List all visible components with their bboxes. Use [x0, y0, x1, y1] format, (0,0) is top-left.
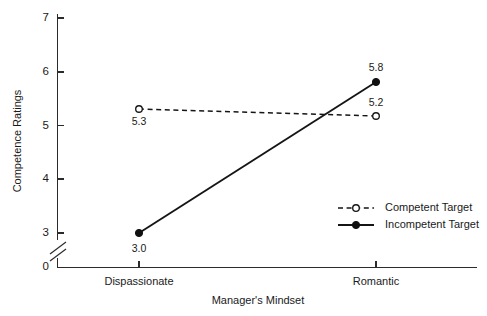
legend-label-incompetent-target: Incompetent Target [385, 218, 479, 230]
y-tick-label-3: 3 [43, 226, 49, 238]
incompetent-target-line [139, 82, 376, 233]
chart-legend: Competent Target Incompetent Target [338, 201, 479, 230]
legend-item-incompetent-target[interactable]: Incompetent Target [338, 218, 479, 230]
y-tick-label-5: 5 [43, 119, 49, 131]
data-label-competent-romantic: 5.2 [369, 96, 384, 108]
competence-ratings-line-chart: 7 6 5 4 3 0 Dispassionate Romantic Manag… [0, 0, 487, 316]
x-axis-title: Manager's Mindset [212, 294, 305, 306]
data-label-competent-dispassionate: 5.3 [132, 115, 147, 127]
legend-open-circle-icon [353, 205, 360, 212]
data-label-incompetent-romantic: 5.8 [369, 61, 384, 73]
y-ticks-group: 7 6 5 4 3 0 [43, 11, 64, 272]
legend-label-competent-target: Competent Target [385, 201, 472, 213]
competent-target-point-romantic [373, 113, 380, 120]
y-tick-label-4: 4 [43, 172, 50, 184]
chart-container: 7 6 5 4 3 0 Dispassionate Romantic Manag… [0, 0, 487, 316]
x-tick-label-romantic: Romantic [353, 275, 400, 287]
y-tick-label-6: 6 [43, 65, 49, 77]
incompetent-target-point-dispassionate [135, 229, 142, 236]
legend-item-competent-target[interactable]: Competent Target [338, 201, 472, 213]
y-tick-label-0: 0 [43, 260, 49, 272]
y-tick-label-7: 7 [43, 11, 49, 23]
competent-target-line [139, 109, 376, 116]
competent-target-point-dispassionate [136, 106, 143, 113]
legend-filled-circle-icon [352, 221, 359, 228]
x-ticks-group: Dispassionate Romantic [104, 261, 399, 287]
data-label-incompetent-dispassionate: 3.0 [132, 242, 147, 254]
x-tick-label-dispassionate: Dispassionate [104, 275, 173, 287]
y-axis-title: Competence Ratings [11, 89, 23, 192]
incompetent-target-point-romantic [372, 78, 379, 85]
